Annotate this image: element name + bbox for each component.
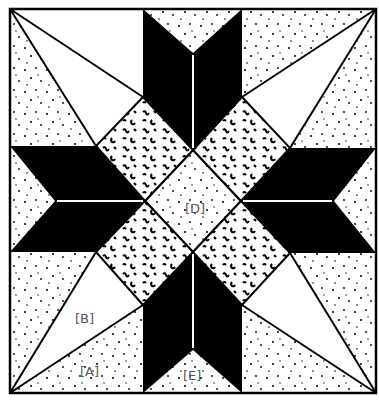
label-e: [E] bbox=[183, 368, 201, 383]
label-b: [B] bbox=[75, 311, 94, 326]
label-a: [A] bbox=[80, 364, 99, 379]
label-d: [D] bbox=[185, 201, 205, 216]
quilt-block-diagram: [D] [B] [A] [E] bbox=[0, 0, 379, 401]
